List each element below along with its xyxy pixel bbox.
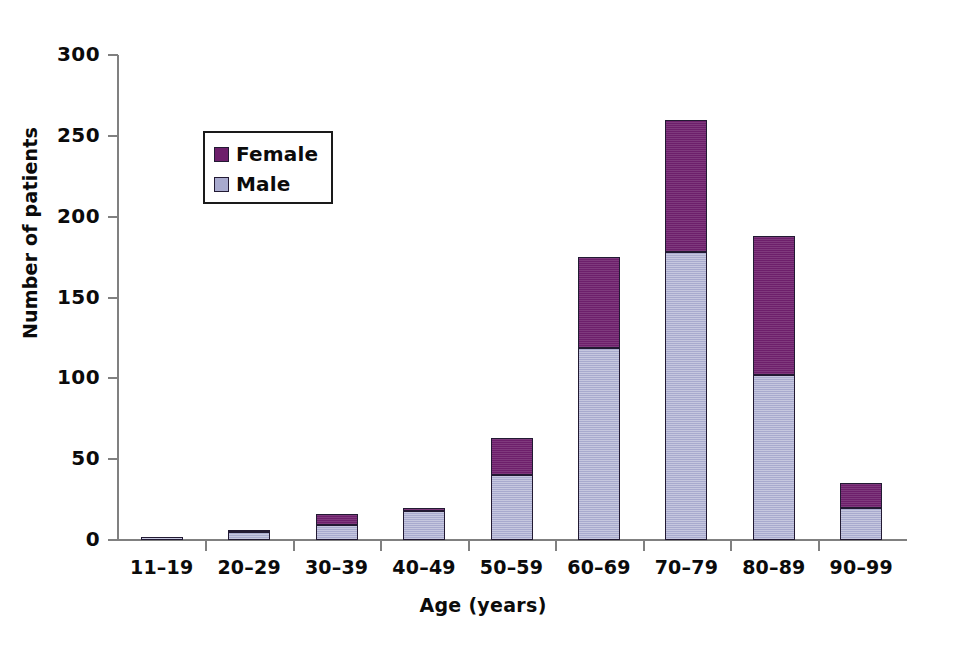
y-axis-tick	[108, 458, 118, 460]
x-axis-tick	[293, 541, 295, 551]
bar-segment-male[interactable]	[228, 532, 270, 540]
x-axis-tick	[205, 541, 207, 551]
y-axis-tick-label: 100	[38, 367, 100, 387]
x-axis-tick-label: 80–89	[724, 556, 824, 578]
bar-segment-male[interactable]	[316, 525, 358, 540]
bar-segment-male[interactable]	[840, 508, 882, 540]
bar-segment-male[interactable]	[665, 252, 707, 540]
bar-stack[interactable]	[753, 236, 795, 540]
y-axis-tick	[108, 216, 118, 218]
bar-segment-male[interactable]	[403, 511, 445, 540]
bar-segment-female[interactable]	[316, 514, 358, 525]
bar-segment-male[interactable]	[753, 375, 795, 540]
bar-segment-female[interactable]	[578, 257, 620, 348]
x-axis-tick	[468, 541, 470, 551]
x-axis-title: Age (years)	[0, 594, 966, 616]
x-axis-tick-label: 90–99	[811, 556, 911, 578]
bar-segment-female[interactable]	[840, 483, 882, 507]
legend-label-male: Male	[236, 174, 291, 194]
x-axis-tick	[380, 541, 382, 551]
legend-swatch-male	[214, 177, 229, 192]
x-axis-tick	[555, 541, 557, 551]
bar-segment-male[interactable]	[578, 348, 620, 540]
x-axis-tick	[730, 541, 732, 551]
legend-swatch-female	[214, 147, 229, 162]
y-axis-tick	[108, 54, 118, 56]
x-axis-tick	[643, 541, 645, 551]
x-axis-tick-label: 30–39	[287, 556, 387, 578]
bar-stack[interactable]	[491, 438, 533, 540]
y-axis-tick-label: 300	[38, 44, 100, 64]
y-axis-tick	[108, 377, 118, 379]
bar-stack[interactable]	[141, 537, 183, 540]
y-axis-tick-label: 150	[38, 287, 100, 307]
bar-segment-female[interactable]	[228, 530, 270, 532]
bar-stack[interactable]	[665, 120, 707, 540]
bar-segment-female[interactable]	[665, 120, 707, 253]
x-axis-tick-label: 70–79	[636, 556, 736, 578]
bar-stack[interactable]	[316, 514, 358, 540]
bar-stack[interactable]	[578, 257, 620, 540]
plot-area	[118, 55, 905, 540]
bar-stack[interactable]	[840, 483, 882, 540]
legend-item-female[interactable]: Female	[214, 139, 331, 169]
bar-segment-male[interactable]	[491, 475, 533, 540]
x-axis-tick-label: 40–49	[374, 556, 474, 578]
x-axis-tick-label: 60–69	[549, 556, 649, 578]
x-axis-tick	[818, 541, 820, 551]
legend-item-male[interactable]: Male	[214, 169, 331, 199]
y-axis-tick	[108, 135, 118, 137]
bar-segment-female[interactable]	[403, 508, 445, 511]
bar-stack[interactable]	[228, 530, 270, 540]
bar-segment-male[interactable]	[141, 537, 183, 540]
x-axis-tick-label: 20–29	[199, 556, 299, 578]
legend-label-female: Female	[236, 144, 318, 164]
y-axis-tick-label: 0	[38, 529, 100, 549]
y-axis-tick-label: 200	[38, 206, 100, 226]
bar-stack[interactable]	[403, 508, 445, 540]
x-axis-tick-label: 11–19	[112, 556, 212, 578]
x-axis-tick-label: 50–59	[462, 556, 562, 578]
bar-segment-female[interactable]	[491, 438, 533, 475]
y-axis-tick	[108, 297, 118, 299]
y-axis-tick-label: 250	[38, 125, 100, 145]
y-axis-tick-label: 50	[38, 448, 100, 468]
chart-screenshot: Number of patients 050100150200250300 11…	[0, 0, 966, 650]
chart-legend: Female Male	[203, 131, 333, 204]
bar-segment-female[interactable]	[753, 236, 795, 375]
